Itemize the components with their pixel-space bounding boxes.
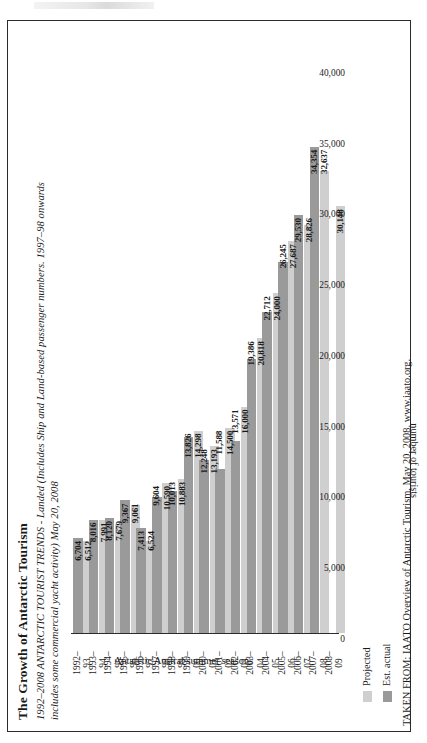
category-axis-title: Antarctic Austral summer seasons xyxy=(114,655,253,666)
value-axis-tick-label: 0 xyxy=(305,634,345,644)
category-label: 2008– 09 xyxy=(324,640,344,686)
value-label-actual: 10,013 xyxy=(167,482,177,726)
value-label-actual: 6,704 xyxy=(73,541,83,726)
rotated-figure-stage: The Growth of Antarctic Tourism 1992–200… xyxy=(11,26,407,726)
value-axis-tick-label: 40,000 xyxy=(305,68,345,78)
value-axis-tick-label: 15,000 xyxy=(305,422,345,432)
figure-frame: The Growth of Antarctic Tourism 1992–200… xyxy=(7,20,411,732)
value-axis-tick-label: 10,000 xyxy=(305,493,345,503)
value-label-actual: 7,413 xyxy=(136,531,146,726)
value-label-actual: 9,367 xyxy=(120,503,130,726)
figure-page: The Growth of Antarctic Tourism 1992–200… xyxy=(0,0,427,743)
figure-subtitle-line1: 1992–2008 ANTARCTIC TOURIST TRENDS - Lan… xyxy=(35,182,46,720)
value-axis-tick-label: 35,000 xyxy=(305,139,345,149)
legend-swatch-projected xyxy=(363,691,372,702)
value-axis-tick-label: 25,000 xyxy=(305,280,345,290)
value-axis-tick-label: 30,000 xyxy=(305,210,345,220)
legend-swatch-actual xyxy=(383,691,392,702)
value-label-actual: 8,016 xyxy=(88,523,98,726)
figure-subtitle-line2: includes some commercial yacht activity)… xyxy=(49,481,60,720)
value-label-actual: 9,604 xyxy=(151,486,161,726)
value-label-actual: 8,120 xyxy=(104,521,114,726)
source-note: TAKEN FROM: IAATO Overview of Antarctic … xyxy=(401,359,412,726)
legend-label-projected: Projected xyxy=(361,648,372,686)
scan-artifact-strip xyxy=(34,2,154,9)
legend-label-actual: Est. actual xyxy=(381,644,392,686)
figure-title: The Growth of Antarctic Tourism xyxy=(15,523,31,720)
value-axis-tick-label: 20,000 xyxy=(305,351,345,361)
value-axis-tick-label: 5,000 xyxy=(305,563,345,573)
